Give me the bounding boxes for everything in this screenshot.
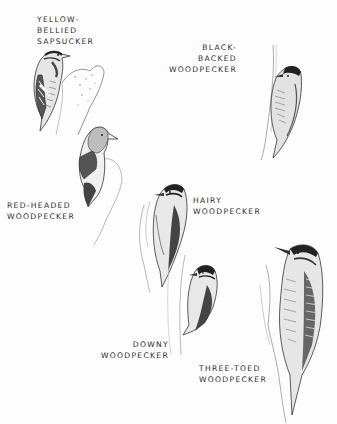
woodpecker-illustration-plate: YELLOW- BELLIED SAPSUCKER BLACK- BACKED … (0, 0, 337, 424)
label-line: WOODPECKER (160, 64, 237, 75)
species-label: BLACK- BACKED WOODPECKER (160, 42, 237, 75)
red-headed-woodpecker-illustration (60, 125, 140, 245)
label-line: BLACK- (160, 42, 237, 53)
species-label: YELLOW- BELLIED SAPSUCKER (37, 14, 94, 47)
label-line: WOODPECKER (7, 211, 75, 222)
species-label: DOWNY WOODPECKER (90, 339, 169, 361)
label-line: WOODPECKER (90, 350, 169, 361)
label-line: DOWNY (90, 339, 169, 350)
label-line: THREE-TOED (199, 363, 267, 374)
species-label: THREE-TOED WOODPECKER (199, 363, 267, 385)
label-line: BACKED (160, 53, 237, 64)
label-line: HAIRY (193, 195, 261, 206)
label-line: RED-HEADED (7, 200, 75, 211)
label-line: YELLOW- (37, 14, 94, 25)
downy-woodpecker-illustration (165, 255, 235, 355)
label-line: WOODPECKER (193, 206, 261, 217)
black-backed-woodpecker-illustration (225, 40, 305, 160)
label-line: BELLIED (37, 25, 94, 36)
three-toed-woodpecker-illustration (250, 235, 337, 424)
label-line: WOODPECKER (199, 374, 267, 385)
species-label: HAIRY WOODPECKER (193, 195, 261, 217)
species-label: RED-HEADED WOODPECKER (7, 200, 75, 222)
label-line: SAPSUCKER (37, 36, 94, 47)
